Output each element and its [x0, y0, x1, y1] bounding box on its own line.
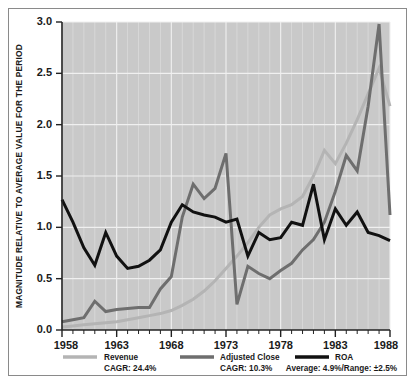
- x-tick-label: 1973: [214, 339, 238, 351]
- y-tick-label: 1.5: [37, 169, 52, 181]
- y-tick-label: 1.0: [37, 220, 52, 232]
- x-axis-ticks: 1958196319681973197819831988: [54, 330, 398, 351]
- y-tick-label: 0.0: [37, 323, 52, 335]
- x-tick-label: 1983: [323, 339, 347, 351]
- legend-label: Revenue: [104, 353, 139, 362]
- legend-sublabel: CAGR: 10.3%: [220, 364, 273, 373]
- legend-sublabel: CAGR: 24.4%: [104, 364, 157, 373]
- y-tick-label: 0.5: [37, 272, 52, 284]
- legend-label: ROA: [335, 353, 353, 362]
- x-tick-label: 1968: [159, 339, 183, 351]
- legend-label: Adjusted Close: [220, 353, 280, 362]
- x-tick-label: 1958: [54, 339, 78, 351]
- x-tick-label: 1963: [104, 339, 128, 351]
- chart-figure: 0.00.51.01.52.02.53.0 195819631968197319…: [0, 0, 415, 392]
- y-tick-label: 2.5: [37, 66, 52, 78]
- y-tick-label: 2.0: [37, 118, 52, 130]
- y-tick-label: 3.0: [37, 15, 52, 27]
- line-chart: 0.00.51.01.52.02.53.0 195819631968197319…: [0, 0, 415, 392]
- x-tick-label: 1988: [374, 339, 398, 351]
- chart-legend: RevenueCAGR: 24.4%Adjusted CloseCAGR: 10…: [63, 353, 398, 373]
- y-axis-ticks: 0.00.51.01.52.02.53.0: [37, 15, 62, 335]
- x-tick-label: 1978: [268, 339, 292, 351]
- y-axis-label: MAGNITUDE RELATIVE TO AVERAGE VALUE FOR …: [14, 44, 24, 308]
- y-axis-title: MAGNITUDE RELATIVE TO AVERAGE VALUE FOR …: [14, 44, 24, 308]
- legend-sublabel: Average: 4.9%/Range: ±2.5%: [286, 364, 398, 373]
